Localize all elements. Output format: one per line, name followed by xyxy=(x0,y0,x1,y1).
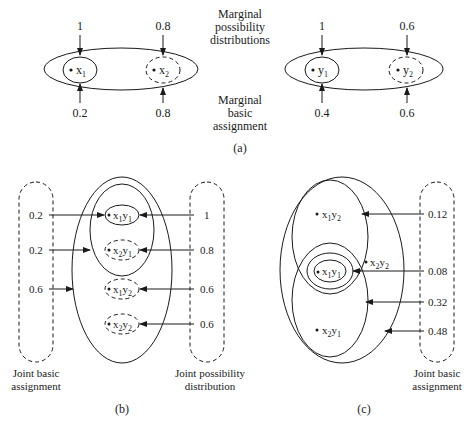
element-x1y1-c: x1y1 xyxy=(317,265,342,280)
element-x2y1-b: x2y1 xyxy=(108,244,133,259)
element-x2y2-c: x2y2 xyxy=(365,256,390,271)
jposs-value-1: 1 xyxy=(204,209,210,221)
element-x1y2-b: x1y2 xyxy=(108,283,133,298)
inner-ellipse-b xyxy=(90,184,154,276)
diagram-canvas: Marginal possibility distributions Margi… xyxy=(0,0,475,424)
svg-text:x1y1: x1y1 xyxy=(113,209,132,224)
element-x2: x2 xyxy=(159,63,169,79)
panel-b: x1y1 x2y1 x1y2 x2y2 0.2 0.2 0.6 1 0.8 0.… xyxy=(11,177,245,416)
svg-text:Marginal: Marginal xyxy=(218,93,262,107)
poss-y2: 0.6 xyxy=(400,19,415,33)
jbpa-c-value-2: 0.08 xyxy=(428,265,448,277)
poss-x1: 1 xyxy=(77,19,83,33)
svg-text:distributions: distributions xyxy=(210,33,270,47)
jposs-value-4: 0.6 xyxy=(200,318,214,330)
jbpa-value-3: 0.6 xyxy=(29,283,43,295)
svg-text:assignment: assignment xyxy=(412,380,462,392)
svg-text:basic: basic xyxy=(228,106,253,120)
marginal-basic-assignment-label: Marginal basic assignment xyxy=(213,93,268,133)
svg-text:x2y2: x2y2 xyxy=(370,256,389,271)
caption-b: (b) xyxy=(115,402,129,416)
element-x2y1-c: x2y1 xyxy=(316,324,342,339)
jbpa-value-1: 0.2 xyxy=(29,209,43,221)
poss-x2: 0.8 xyxy=(156,19,171,33)
jposs-value-3: 0.6 xyxy=(200,283,214,295)
svg-text:x2y1: x2y1 xyxy=(113,244,132,259)
element-y2: y2 xyxy=(403,63,413,79)
element-x1y1-b: x1y1 xyxy=(108,209,133,224)
svg-text:Marginal: Marginal xyxy=(218,7,262,21)
element-x2y2-b: x2y2 xyxy=(108,318,133,333)
caption-a: (a) xyxy=(233,141,246,155)
jbpa-c-value-1: 0.12 xyxy=(428,208,447,220)
svg-text:x1y2: x1y2 xyxy=(322,208,341,223)
caption-c: (c) xyxy=(357,402,370,416)
x-universe: x1 x2 1 0.8 0.2 0.8 xyxy=(44,19,198,120)
joint-basic-assignment-label: Joint basic xyxy=(13,367,60,379)
bpa-y1: 0.4 xyxy=(315,106,330,120)
svg-text:assignment: assignment xyxy=(11,380,61,392)
svg-text:x1y2: x1y2 xyxy=(113,283,132,298)
bpa-x2: 0.8 xyxy=(156,106,171,120)
bpa-x1: 0.2 xyxy=(73,106,88,120)
jbpa-c-value-3: 0.32 xyxy=(428,296,447,308)
jbpa-c-value-4: 0.48 xyxy=(428,325,448,337)
jposs-value-2: 0.8 xyxy=(200,244,214,256)
jbpa-value-2: 0.2 xyxy=(29,244,43,256)
panel-c: x1y2 x1y1 x2y2 x2y1 0.12 0.08 0.32 0.48 … xyxy=(280,177,462,416)
svg-text:x2y2: x2y2 xyxy=(113,318,132,333)
panel-a: Marginal possibility distributions Margi… xyxy=(44,7,443,155)
svg-text:assignment: assignment xyxy=(213,119,268,133)
svg-text:x1y1: x1y1 xyxy=(322,265,341,280)
joint-basic-assignment-label-c: Joint basic xyxy=(414,367,461,379)
element-y1: y1 xyxy=(318,63,328,79)
svg-text:x2y1: x2y1 xyxy=(322,324,341,339)
marginal-possibility-label: Marginal possibility distributions xyxy=(210,7,270,47)
joint-possibility-label: Joint possibility xyxy=(175,367,245,379)
bpa-y2: 0.6 xyxy=(400,106,415,120)
svg-text:distribution: distribution xyxy=(185,380,236,392)
svg-text:possibility: possibility xyxy=(215,20,265,34)
y-universe: y1 y2 1 0.6 0.4 0.6 xyxy=(285,19,443,120)
element-x1y2-c: x1y2 xyxy=(316,208,342,223)
poss-y1: 1 xyxy=(319,19,325,33)
element-x1: x1 xyxy=(76,63,86,79)
